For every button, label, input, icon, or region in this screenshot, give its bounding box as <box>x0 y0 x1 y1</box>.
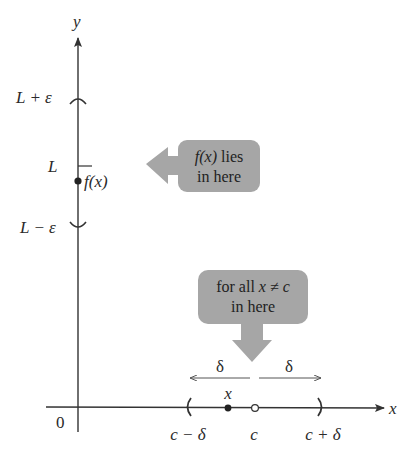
right-delta-mark: c + δ <box>305 398 342 444</box>
l-plus-epsilon-label: L + ε <box>15 88 52 107</box>
delta-right-label: δ <box>285 357 293 376</box>
l-minus-epsilon-label: L − ε <box>19 218 56 237</box>
c-label: c <box>250 425 258 444</box>
x-callout-line2: in here <box>231 298 275 315</box>
fx-callout: f(x) lies in here <box>146 140 260 192</box>
fx-label: f(x) <box>84 172 108 191</box>
upper-epsilon-mark: L + ε <box>15 88 86 107</box>
y-axis: y <box>71 12 81 432</box>
l-label: L <box>47 157 57 176</box>
x-axis: x 0 <box>46 399 397 432</box>
c-point: c <box>250 405 258 444</box>
y-axis-label: y <box>71 12 81 31</box>
x-callout: for all x ≠ c in here <box>198 270 308 362</box>
c-plus-delta-label: c + δ <box>305 425 342 444</box>
fx-point: f(x) <box>74 172 108 191</box>
origin-label: 0 <box>56 413 65 432</box>
x-point-label: x <box>223 384 232 403</box>
fx-callout-line1: f(x) lies <box>195 148 243 166</box>
epsilon-delta-diagram: y x 0 L + ε L f(x) L − ε f(x) lies in he… <box>0 0 420 458</box>
x-axis-label: x <box>388 399 397 418</box>
delta-right-arrow: δ <box>259 357 321 378</box>
left-delta-mark: c − δ <box>170 398 207 444</box>
delta-left-label: δ <box>216 357 224 376</box>
c-minus-delta-label: c − δ <box>170 425 207 444</box>
x-callout-line1: for all x ≠ c <box>216 278 290 295</box>
delta-left-arrow: δ <box>190 357 250 378</box>
lower-epsilon-mark: L − ε <box>19 218 86 237</box>
fx-callout-line2: in here <box>197 168 241 185</box>
